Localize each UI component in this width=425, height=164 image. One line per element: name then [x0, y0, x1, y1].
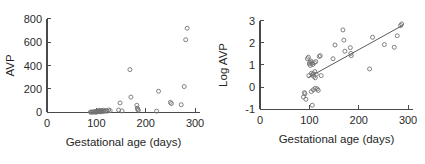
data-point: [343, 49, 347, 53]
data-point: [310, 103, 314, 107]
data-points-right: [301, 22, 403, 107]
y-axis-title: Log AVP: [217, 43, 229, 87]
regression-line-group: [308, 25, 403, 78]
figure-container: 02004006008000100200300 AVP Gestational …: [0, 0, 425, 164]
data-point: [371, 35, 375, 39]
x-tick-label: 100: [87, 117, 105, 129]
data-point: [128, 68, 132, 72]
y-tick-label: 2: [249, 37, 255, 49]
scatter-plot-log-avp: -101230100200300 Log AVP Gestational age…: [213, 0, 425, 164]
axes-left: [47, 19, 200, 113]
data-point: [368, 67, 372, 71]
data-point: [185, 26, 189, 30]
x-axis-title: Gestational age (days): [279, 133, 395, 145]
x-tick-label: 200: [350, 114, 368, 126]
data-point: [331, 57, 335, 61]
data-point: [342, 38, 346, 42]
x-axis-title: Gestational age (days): [66, 136, 182, 148]
y-tick-label: 400: [24, 60, 42, 72]
y-tick-label: 0: [36, 106, 42, 118]
x-tick-label: 200: [137, 117, 155, 129]
data-point: [395, 34, 399, 38]
data-point: [182, 85, 186, 89]
axes-right: [260, 21, 413, 110]
x-tick-label: 0: [44, 117, 50, 129]
y-tick-label: 800: [24, 13, 42, 25]
data-point: [169, 102, 173, 106]
data-point: [184, 38, 188, 42]
data-point: [157, 89, 161, 93]
scatter-plot-avp: 02004006008000100200300 AVP Gestational …: [0, 0, 212, 164]
y-tick-label: 1: [249, 59, 255, 71]
regression-line: [308, 25, 403, 78]
data-point: [341, 28, 345, 32]
data-point: [318, 54, 322, 58]
data-point: [392, 45, 396, 49]
data-point: [333, 43, 337, 47]
y-axis-title: AVP: [4, 54, 16, 76]
data-point: [319, 74, 323, 78]
chart-panel-log-avp: -101230100200300 Log AVP Gestational age…: [213, 0, 425, 164]
data-point: [348, 46, 352, 50]
data-point: [179, 103, 183, 107]
chart-panel-avp: 02004006008000100200300 AVP Gestational …: [0, 0, 212, 164]
x-tick-label: 300: [186, 117, 204, 129]
ticks-right: [260, 21, 408, 110]
y-tick-label: 200: [24, 83, 42, 95]
data-point: [118, 101, 122, 105]
y-tick-label: 0: [249, 81, 255, 93]
data-points-left: [88, 26, 189, 114]
y-tick-label: 3: [249, 15, 255, 27]
data-point: [382, 43, 386, 47]
y-tick-label: -1: [245, 103, 255, 115]
x-tick-label: 300: [399, 114, 417, 126]
ticks-left: [47, 19, 195, 113]
x-tick-label: 0: [257, 114, 263, 126]
data-point: [304, 97, 308, 101]
y-tick-label: 600: [24, 36, 42, 48]
data-point: [129, 95, 133, 99]
x-tick-label: 100: [300, 114, 318, 126]
